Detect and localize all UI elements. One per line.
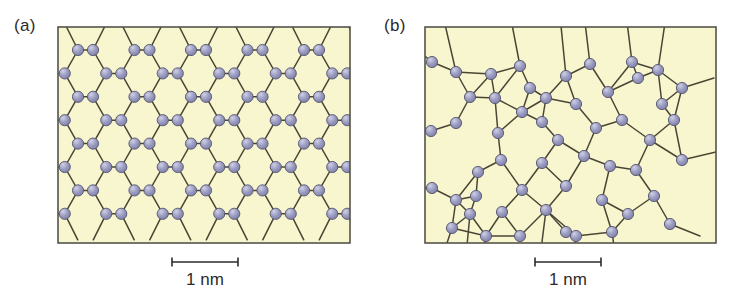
panel-b-amorphous: (b) 1 nm — [370, 0, 740, 308]
scalebar-label-b: 1 nm — [508, 270, 628, 290]
panel-a-crystalline: (a) 1 nm — [0, 0, 370, 308]
crystalline-lattice-diagram — [0, 0, 370, 308]
figure-root: (a) 1 nm (b) 1 nm — [0, 0, 740, 308]
amorphous-network-diagram — [370, 0, 740, 308]
scalebar-label-a: 1 nm — [145, 270, 265, 290]
